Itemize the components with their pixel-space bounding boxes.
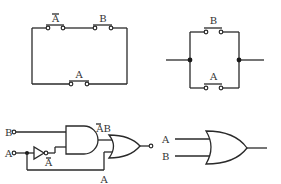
switch-not-a: A: [46, 13, 65, 30]
or-gate-standalone: A B: [161, 131, 267, 164]
feedback-label: A: [99, 174, 108, 184]
switch-label: B: [210, 15, 217, 26]
input-label-b: B: [5, 127, 12, 138]
switch-label: A: [209, 71, 218, 82]
logic-diagram: A B A B: [0, 0, 281, 184]
and-output-label: AB: [95, 123, 111, 134]
not-gate: A: [34, 147, 66, 168]
logic-circuit: B A A AB A: [4, 123, 153, 184]
switch-label: A: [74, 69, 83, 80]
switch-a: A: [69, 69, 89, 86]
input-label-a: A: [4, 148, 13, 159]
or-gate: [109, 135, 153, 158]
output-terminal: [149, 144, 153, 148]
series-circuit: A B A: [32, 13, 127, 86]
switch-b: B: [93, 13, 113, 30]
switch-a: A: [204, 71, 223, 90]
switch-b: B: [204, 15, 223, 34]
and-gate: AB: [66, 123, 112, 154]
input-label-b: B: [162, 151, 169, 162]
input-label-a: A: [161, 134, 170, 145]
switch-label: A: [51, 13, 60, 24]
parallel-circuit: B A: [166, 15, 264, 90]
junction-dot: [188, 58, 193, 63]
switch-label: B: [99, 13, 106, 24]
junction-dot: [237, 58, 242, 63]
not-output-label: A: [44, 157, 53, 168]
